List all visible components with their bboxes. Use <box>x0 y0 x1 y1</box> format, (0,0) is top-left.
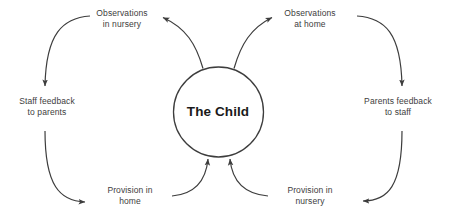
the-child-label: The Child <box>168 104 268 119</box>
node-observations-at-home: Observations at home <box>272 8 348 30</box>
node-parents-feedback-to-staff: Parents feedback to staff <box>352 96 444 118</box>
node-provision-in-home: Provision in home <box>92 185 168 207</box>
edge-provision-in-home-to-child <box>172 159 208 196</box>
edge-child-to-observations-in-nursery <box>163 18 203 69</box>
edge-provision-in-nursery-to-child <box>230 159 268 196</box>
edge-observations-at-home-to-parents-feedback <box>357 16 402 86</box>
node-provision-in-nursery: Provision in nursery <box>272 185 348 207</box>
node-staff-feedback-to-parents: Staff feedback to parents <box>6 96 88 118</box>
cycle-diagram: The Child Observations in nursery Observ… <box>0 0 453 221</box>
edge-parents-feedback-to-provision-in-nursery <box>363 131 402 201</box>
edge-staff-feedback-to-provision-in-home <box>45 131 85 202</box>
edge-child-to-observations-at-home <box>234 18 272 69</box>
node-observations-in-nursery: Observations in nursery <box>84 8 160 30</box>
